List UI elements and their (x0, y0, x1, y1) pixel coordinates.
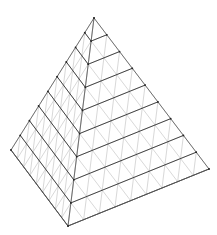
mesh-edge (115, 184, 118, 207)
mesh-edge (98, 104, 111, 121)
mesh-edge (105, 167, 118, 184)
mesh-edge (142, 108, 155, 125)
mesh-edge (165, 165, 178, 182)
mesh-edge (124, 138, 137, 155)
apex-node (93, 17, 95, 19)
mesh-node (67, 225, 69, 227)
mesh-edge (152, 125, 155, 148)
slice-line (82, 85, 145, 110)
mesh-edge (155, 102, 158, 125)
mesh-edge (127, 91, 130, 114)
mesh-edge (101, 81, 114, 98)
mesh-edge (104, 58, 117, 75)
mesh-edge (129, 91, 142, 108)
mesh-edge (181, 135, 184, 158)
mesh-edge (88, 64, 101, 81)
mesh-node (38, 105, 40, 107)
mesh-edge (121, 161, 134, 178)
mesh-node (10, 149, 12, 151)
mesh-edge (102, 167, 105, 190)
mesh-edge (84, 197, 87, 220)
mesh-node (65, 61, 67, 63)
mesh-edge (131, 178, 134, 201)
mesh-edge (102, 190, 115, 207)
mesh-edge (136, 154, 149, 171)
mesh-edge (105, 144, 108, 167)
mesh-node (90, 40, 92, 42)
triangular-mesh-lines (11, 18, 209, 226)
mesh-edge (114, 98, 127, 115)
mesh-edge (165, 142, 168, 165)
mesh-edge (134, 154, 137, 177)
mesh-edge (118, 184, 131, 201)
mesh-node (75, 46, 77, 48)
mesh-node (82, 110, 84, 112)
mesh-node (29, 120, 31, 122)
mesh-node (119, 51, 121, 53)
mesh-edge (111, 98, 114, 121)
mesh-edge (108, 144, 121, 161)
mesh-edge (162, 165, 165, 188)
mesh-edge (129, 68, 132, 91)
mesh-edge (117, 75, 130, 92)
mesh-node (56, 76, 58, 78)
mesh-edge (152, 148, 165, 165)
mesh-edge (111, 121, 124, 138)
mesh-edge (82, 110, 95, 127)
mesh-node (157, 101, 159, 103)
mesh-node (79, 133, 81, 135)
mesh-edge (108, 121, 111, 144)
mesh-edge (121, 138, 124, 161)
mesh-node (170, 118, 172, 120)
mesh-node (76, 156, 78, 158)
mesh-edge (85, 87, 98, 104)
mesh-edge (114, 75, 117, 98)
mesh-node (70, 202, 72, 204)
mesh-edge (118, 161, 121, 184)
mesh-edge (193, 152, 196, 175)
slice-line (85, 33, 91, 41)
mesh-edge (101, 58, 104, 81)
mesh-edge (139, 108, 142, 131)
mesh-edge (149, 171, 162, 188)
mesh-edge (136, 131, 139, 154)
mesh-edge (134, 178, 147, 195)
mesh-edge (87, 197, 100, 214)
slice-line (88, 52, 119, 65)
slice-line (39, 106, 77, 157)
mesh-edge (89, 173, 102, 190)
mesh-edge (87, 173, 90, 196)
mesh-edge (178, 159, 181, 182)
mesh-edge (95, 127, 108, 144)
edge-apex-right (94, 18, 209, 169)
mesh-edge (155, 125, 168, 142)
mesh-edge (139, 131, 152, 148)
mesh-node (84, 86, 86, 88)
mesh-edge (98, 81, 101, 104)
tetrahedron-diagram (0, 0, 217, 235)
slice-line (74, 135, 184, 179)
mesh-node (106, 34, 108, 36)
tetrahedron-outline-edges (11, 18, 209, 226)
slice-line (91, 35, 107, 41)
mesh-edge (99, 190, 102, 213)
mesh-node (144, 84, 146, 86)
edge-apex-left (11, 18, 94, 150)
slice-line (29, 121, 73, 180)
mesh-edge (127, 115, 140, 132)
mesh-node (195, 151, 197, 153)
tetrahedron-mesh-svg (0, 0, 217, 235)
mesh-node (47, 90, 49, 92)
mesh-edge (149, 148, 152, 171)
mesh-node (84, 32, 86, 34)
mesh-edge (104, 35, 107, 58)
mesh-edge (117, 52, 120, 75)
mesh-edge (89, 150, 92, 173)
slice-line (77, 119, 171, 157)
mesh-edge (124, 115, 127, 138)
mesh-node (183, 135, 185, 137)
slice-line (85, 68, 132, 87)
mesh-node (73, 179, 75, 181)
mesh-node (87, 63, 89, 65)
mesh-edge (91, 41, 104, 58)
